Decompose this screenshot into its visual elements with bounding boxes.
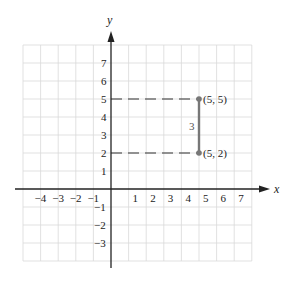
y-tick-label: 7 — [101, 57, 107, 69]
x-tick-label: −2 — [70, 192, 82, 204]
axes: x y — [15, 13, 280, 268]
y-tick-label: 2 — [101, 147, 107, 159]
point-marker — [196, 150, 202, 156]
point-label: (5, 2) — [203, 147, 227, 160]
y-tick-label: 4 — [101, 111, 107, 123]
x-tick-label: 5 — [203, 192, 209, 204]
x-tick-label: −4 — [35, 192, 47, 204]
x-tick-label: 6 — [221, 192, 227, 204]
x-tick-label: 3 — [168, 192, 174, 204]
segment-length-label: 3 — [189, 120, 195, 132]
x-axis-arrow-icon — [259, 186, 270, 193]
y-tick-label: −1 — [94, 201, 106, 213]
x-tick-label: −3 — [52, 192, 64, 204]
dashed-guide-lines — [111, 99, 199, 153]
y-tick-label: 3 — [101, 129, 107, 141]
x-axis-label: x — [273, 182, 280, 196]
plotted-points: (5, 5)(5, 2) — [196, 93, 227, 160]
y-axis-label: y — [106, 13, 113, 27]
y-tick-label: 6 — [101, 75, 107, 87]
x-tick-label: 7 — [238, 192, 244, 204]
x-tick-label: 1 — [133, 192, 139, 204]
point-marker — [196, 96, 202, 102]
y-axis-arrow-icon — [108, 31, 115, 42]
distance-segment: 3 — [189, 99, 199, 153]
x-tick-label: 2 — [150, 192, 156, 204]
x-tick-label: 4 — [185, 192, 191, 204]
y-tick-label: −2 — [94, 219, 106, 231]
y-tick-label: 5 — [101, 93, 107, 105]
point-label: (5, 5) — [203, 93, 227, 106]
y-tick-label: −3 — [94, 237, 106, 249]
y-tick-label: 1 — [101, 165, 107, 177]
coordinate-plane: x y −4−3−2−112345671234567−1−2−3 3 (5, 5… — [0, 0, 290, 285]
